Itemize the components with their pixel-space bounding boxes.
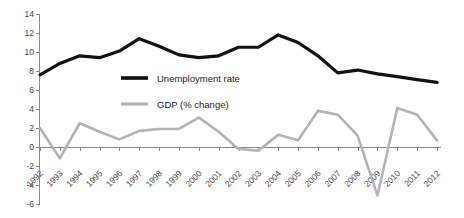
y-axis-tick-label: 2: [29, 123, 34, 133]
y-axis-tick-label: 14: [25, 9, 35, 19]
chart-container: 14121086420-2-4-6 1992199319941995199619…: [0, 0, 464, 218]
legend-label-unemployment-rate: Unemployment rate: [157, 73, 240, 84]
y-axis-tick-label: 0: [29, 142, 34, 152]
y-axis-tick-label: 4: [29, 104, 34, 114]
legend-label-gdp: GDP (% change): [157, 99, 229, 110]
y-axis-tick-label: -2: [26, 161, 34, 171]
y-axis-tick-label: 10: [25, 47, 35, 57]
y-axis-tick-label: -6: [26, 199, 34, 209]
y-axis-tick-label: 12: [25, 28, 35, 38]
line-chart: 14121086420-2-4-6 1992199319941995199619…: [0, 0, 464, 218]
y-axis-tick-label: 6: [29, 85, 34, 95]
y-axis-tick-label: 8: [29, 66, 34, 76]
